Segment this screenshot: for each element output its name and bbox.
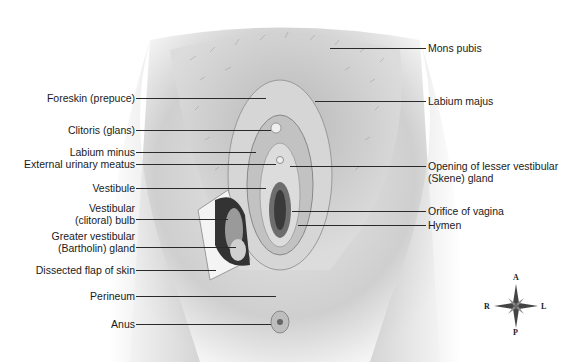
leader-line — [292, 211, 426, 212]
label-external-urinary-meatus: External urinary meatus — [24, 158, 135, 170]
leader-line — [290, 166, 426, 167]
label-skene-gland-opening: Opening of lesser vestibular (Skene) gla… — [428, 160, 558, 184]
leader-line — [136, 98, 266, 99]
compass-label-anterior: A — [513, 273, 519, 282]
label-anus: Anus — [111, 318, 135, 330]
leader-line — [136, 296, 276, 297]
leader-line — [136, 152, 256, 153]
compass-label-left: L — [541, 302, 546, 311]
label-greater-vestibular-gland: Greater vestibular (Bartholin) gland — [52, 230, 135, 254]
leader-line — [136, 324, 271, 325]
compass-rose: A P R L — [486, 276, 546, 336]
compass-star-icon — [486, 276, 546, 336]
label-dissected-flap-of-skin: Dissected flap of skin — [36, 264, 135, 276]
label-clitoris-glans: Clitoris (glans) — [68, 124, 135, 136]
label-vestibule: Vestibule — [92, 182, 135, 194]
compass-label-posterior: P — [513, 328, 518, 337]
label-labium-majus: Labium majus — [428, 95, 493, 107]
leader-line — [136, 164, 276, 165]
leader-line — [330, 48, 426, 49]
leader-line — [298, 225, 426, 226]
leader-line — [136, 219, 228, 220]
leader-line — [136, 188, 266, 189]
label-mons-pubis: Mons pubis — [428, 42, 482, 54]
leader-line — [136, 247, 236, 248]
leader-line — [136, 270, 216, 271]
leader-line — [315, 101, 426, 102]
label-perineum: Perineum — [90, 290, 135, 302]
label-hymen: Hymen — [428, 219, 461, 231]
label-labium-minus: Labium minus — [70, 146, 135, 158]
leader-line — [136, 130, 271, 131]
label-foreskin-prepuce: Foreskin (prepuce) — [47, 92, 135, 104]
label-orifice-of-vagina: Orifice of vagina — [428, 205, 504, 217]
compass-label-right: R — [484, 302, 490, 311]
label-vestibular-bulb: Vestibular (clitoral) bulb — [75, 202, 135, 226]
anatomy-diagram: Foreskin (prepuce) Clitoris (glans) Labi… — [0, 0, 579, 362]
